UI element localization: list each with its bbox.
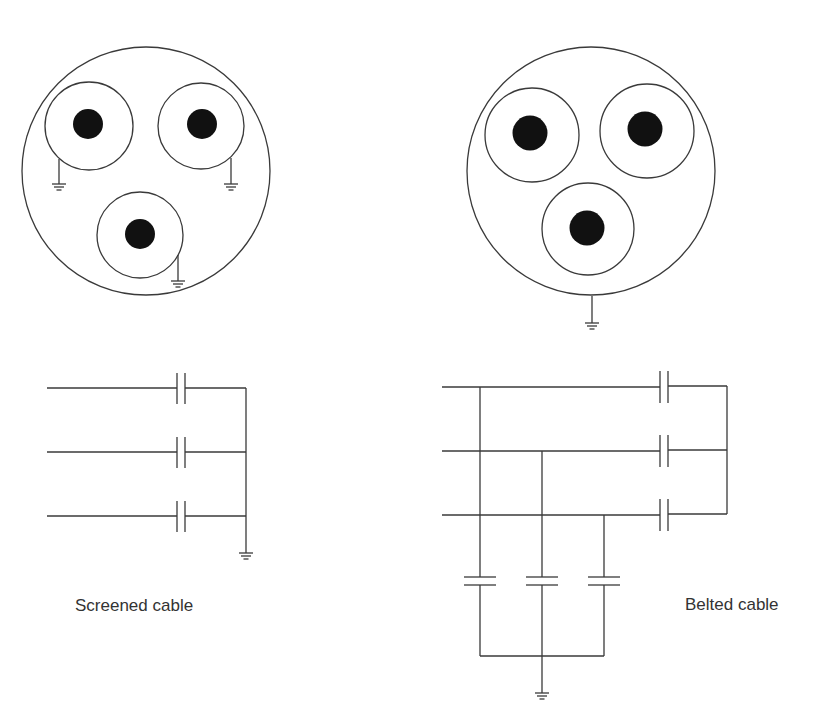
conductor-core [628,112,663,147]
belted-cable-circuit [442,371,727,699]
conductor-core [570,211,605,246]
belted-cable-cross-section [467,47,715,329]
screened-cable-circuit [47,373,253,559]
earth-symbol-icon [224,184,238,190]
belted-core-top-right [600,84,694,178]
phase-line-3 [47,501,246,532]
conductor-core [125,219,155,249]
phase-line-3 [442,499,727,531]
screened-cable-label: Screened cable [75,596,193,616]
belted-core-top-left [485,88,579,182]
phase-line-1 [47,373,246,404]
cable-capacitance-diagram [0,0,829,728]
conductor-core [187,109,217,139]
earth-symbol-icon [585,323,599,329]
earth-symbol-icon [535,693,549,699]
conductor-core [73,109,103,139]
conductor-core [513,116,548,151]
phase-line-2 [442,435,727,467]
outer-belt [467,47,715,295]
phase-line-2 [47,437,246,468]
phase-line-1 [442,371,727,403]
screened-core-top-right [158,83,244,190]
screened-core-bottom [97,192,185,287]
screened-cable-cross-section [22,47,270,295]
earth-symbol-icon [171,281,185,287]
earth-symbol-icon [239,553,253,559]
earth-capacitor-3 [588,515,620,656]
screened-core-top-left [45,82,133,190]
earth-capacitor-2 [526,451,558,693]
belted-core-bottom [542,183,634,275]
earth-capacitor-1 [464,387,496,656]
belted-cable-label: Belted cable [685,595,779,615]
earth-symbol-icon [52,184,66,190]
